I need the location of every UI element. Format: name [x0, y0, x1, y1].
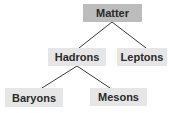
node-leptons: Leptons — [117, 48, 167, 66]
node-label: Hadrons — [55, 51, 100, 63]
node-mesons: Mesons — [90, 88, 147, 106]
node-baryons: Baryons — [5, 88, 63, 107]
edge-hadrons-baryons — [42, 66, 77, 88]
node-hadrons: Hadrons — [48, 48, 106, 66]
edge-matter-hadrons — [79, 22, 112, 48]
node-label: Mesons — [98, 91, 139, 103]
edge-hadrons-mesons — [77, 66, 110, 88]
node-label: Baryons — [12, 92, 56, 104]
node-matter: Matter — [83, 4, 142, 22]
node-label: Leptons — [121, 51, 164, 63]
node-label: Matter — [96, 7, 129, 19]
edge-matter-leptons — [112, 22, 146, 48]
